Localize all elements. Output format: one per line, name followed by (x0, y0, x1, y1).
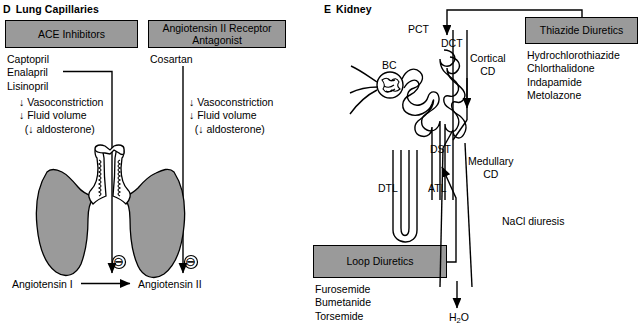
pct-tubule-outer (402, 69, 440, 200)
trachea-top (95, 145, 124, 155)
kidney-panel-graphics (310, 0, 642, 332)
panel-kidney: EKidney Thiazide Diuretics Hydrochloroth… (310, 0, 642, 332)
medullary-cd-right-wall (465, 143, 472, 287)
glomerulus-tuft (382, 78, 400, 92)
loop-of-henle-dtl-inner (401, 168, 409, 236)
loop-action-connector (442, 167, 456, 262)
panel-lung-capillaries: DLung Capillaries ACE Inhibitors Angiote… (0, 0, 310, 332)
bowmans-capsule (377, 72, 403, 98)
afferent-arteriole (351, 66, 377, 82)
lung-panel-graphics (0, 0, 310, 332)
left-lung-shape (36, 169, 94, 275)
trachea-bronchi-shape-right (113, 147, 130, 204)
right-lung-shape (124, 169, 185, 277)
loop-of-henle-dtl-outer (393, 168, 417, 242)
trachea-bronchi-shape (89, 147, 106, 204)
efferent-arteriole (350, 90, 377, 114)
